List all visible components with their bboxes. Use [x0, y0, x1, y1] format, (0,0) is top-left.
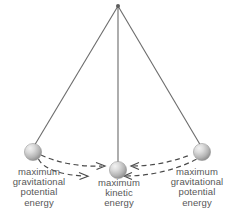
label-left-max-gpe: maximum gravitational potential energy [0, 167, 78, 208]
string-left-line [34, 6, 119, 147]
arrow-right-upper-arc [133, 155, 190, 166]
bob-left [24, 143, 41, 160]
arrow-left-upper-arc [41, 155, 102, 166]
label-center-max-ke: maximum kinetic energy [83, 178, 155, 209]
label-right-line-4: energy [157, 198, 237, 208]
pivot-point [116, 4, 120, 8]
pendulum-strings [34, 6, 202, 164]
label-center-line-3: energy [83, 198, 155, 208]
label-left-line-4: energy [0, 198, 78, 208]
string-right-line [118, 6, 202, 147]
label-right-max-gpe: maximum gravitational potential energy [157, 167, 237, 208]
bob-right [193, 143, 210, 160]
